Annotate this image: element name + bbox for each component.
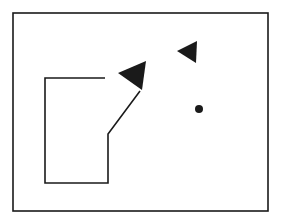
- diagram-canvas: [0, 0, 281, 222]
- background: [0, 0, 281, 222]
- dot-marker: [195, 105, 203, 113]
